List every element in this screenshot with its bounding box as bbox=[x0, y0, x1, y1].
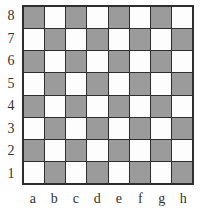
square-e2 bbox=[109, 140, 129, 161]
square-h5 bbox=[172, 73, 192, 94]
square-g3 bbox=[151, 118, 171, 139]
square-g7 bbox=[151, 29, 171, 50]
square-c3 bbox=[66, 118, 86, 139]
square-b4 bbox=[45, 96, 65, 117]
square-d7 bbox=[87, 29, 107, 50]
square-b3 bbox=[45, 118, 65, 139]
square-b8 bbox=[45, 7, 65, 28]
square-d4 bbox=[87, 96, 107, 117]
square-h1 bbox=[172, 162, 192, 183]
square-g5 bbox=[151, 73, 171, 94]
square-e6 bbox=[109, 51, 129, 72]
square-d1 bbox=[87, 162, 107, 183]
square-e8 bbox=[109, 7, 129, 28]
rank-label-5: 5 bbox=[2, 73, 20, 96]
square-f5 bbox=[130, 73, 150, 94]
file-label-e: e bbox=[108, 188, 130, 210]
square-a6 bbox=[24, 51, 44, 72]
square-c1 bbox=[66, 162, 86, 183]
square-c8 bbox=[66, 7, 86, 28]
square-d3 bbox=[87, 118, 107, 139]
square-f1 bbox=[130, 162, 150, 183]
square-h4 bbox=[172, 96, 192, 117]
square-h2 bbox=[172, 140, 192, 161]
square-c2 bbox=[66, 140, 86, 161]
square-g4 bbox=[151, 96, 171, 117]
square-d2 bbox=[87, 140, 107, 161]
square-g8 bbox=[151, 7, 171, 28]
square-c5 bbox=[66, 73, 86, 94]
file-label-g: g bbox=[151, 188, 173, 210]
file-label-a: a bbox=[22, 188, 44, 210]
square-f3 bbox=[130, 118, 150, 139]
rank-label-column: 8 7 6 5 4 3 2 1 bbox=[2, 5, 20, 185]
square-e4 bbox=[109, 96, 129, 117]
file-label-h: h bbox=[173, 188, 195, 210]
square-f2 bbox=[130, 140, 150, 161]
rank-label-7: 7 bbox=[2, 28, 20, 51]
square-f8 bbox=[130, 7, 150, 28]
file-label-f: f bbox=[130, 188, 152, 210]
square-f6 bbox=[130, 51, 150, 72]
square-c7 bbox=[66, 29, 86, 50]
chessboard-grid bbox=[22, 5, 194, 185]
square-h6 bbox=[172, 51, 192, 72]
square-a2 bbox=[24, 140, 44, 161]
square-a4 bbox=[24, 96, 44, 117]
square-h7 bbox=[172, 29, 192, 50]
rank-label-8: 8 bbox=[2, 5, 20, 28]
square-g2 bbox=[151, 140, 171, 161]
square-c4 bbox=[66, 96, 86, 117]
rank-label-6: 6 bbox=[2, 50, 20, 73]
square-d8 bbox=[87, 7, 107, 28]
square-e3 bbox=[109, 118, 129, 139]
file-label-d: d bbox=[87, 188, 109, 210]
chessboard-figure: 8 7 6 5 4 3 2 1 a b c d e f g h bbox=[0, 0, 203, 221]
square-g6 bbox=[151, 51, 171, 72]
square-e1 bbox=[109, 162, 129, 183]
square-e7 bbox=[109, 29, 129, 50]
square-b2 bbox=[45, 140, 65, 161]
rank-label-2: 2 bbox=[2, 140, 20, 163]
square-c6 bbox=[66, 51, 86, 72]
rank-label-4: 4 bbox=[2, 95, 20, 118]
square-d5 bbox=[87, 73, 107, 94]
square-d6 bbox=[87, 51, 107, 72]
square-f7 bbox=[130, 29, 150, 50]
square-a3 bbox=[24, 118, 44, 139]
square-b6 bbox=[45, 51, 65, 72]
square-a5 bbox=[24, 73, 44, 94]
square-b5 bbox=[45, 73, 65, 94]
square-a7 bbox=[24, 29, 44, 50]
square-h8 bbox=[172, 7, 192, 28]
square-b1 bbox=[45, 162, 65, 183]
file-label-b: b bbox=[44, 188, 66, 210]
rank-label-1: 1 bbox=[2, 163, 20, 186]
square-a1 bbox=[24, 162, 44, 183]
file-label-c: c bbox=[65, 188, 87, 210]
rank-label-3: 3 bbox=[2, 118, 20, 141]
square-b7 bbox=[45, 29, 65, 50]
square-e5 bbox=[109, 73, 129, 94]
square-g1 bbox=[151, 162, 171, 183]
file-label-row: a b c d e f g h bbox=[22, 188, 194, 210]
square-a8 bbox=[24, 7, 44, 28]
square-h3 bbox=[172, 118, 192, 139]
square-f4 bbox=[130, 96, 150, 117]
